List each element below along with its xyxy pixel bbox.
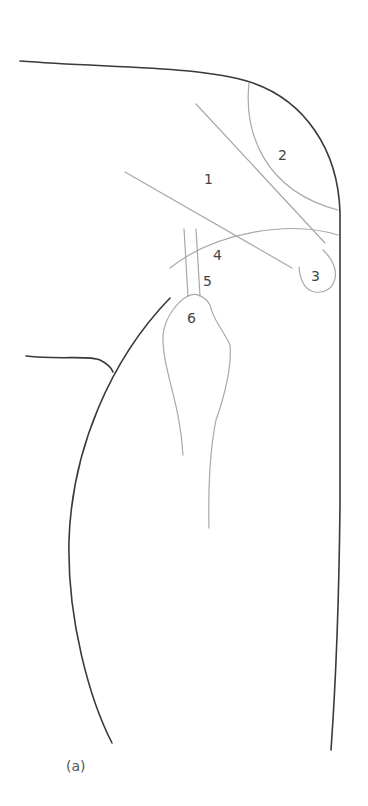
axilla-fold-outline bbox=[26, 356, 113, 372]
label-2: 2 bbox=[278, 147, 287, 163]
anatomical-diagram: 1 2 3 4 5 6 (a) bbox=[0, 0, 368, 806]
label-6: 6 bbox=[187, 310, 196, 326]
label-4: 4 bbox=[213, 247, 222, 263]
figure-caption: (a) bbox=[66, 758, 86, 774]
structure-5-left-line bbox=[184, 229, 188, 296]
diagonal-line-upper bbox=[196, 104, 325, 243]
structure-4-arc bbox=[170, 229, 338, 268]
label-3: 3 bbox=[311, 268, 320, 284]
structure-5-right-line bbox=[196, 229, 200, 296]
label-1: 1 bbox=[204, 171, 213, 187]
label-5: 5 bbox=[203, 273, 212, 289]
arm-outline bbox=[69, 298, 170, 743]
structure-6-outline-right bbox=[188, 294, 230, 528]
structure-6-outline-left bbox=[163, 296, 188, 455]
shoulder-outline bbox=[20, 61, 340, 750]
